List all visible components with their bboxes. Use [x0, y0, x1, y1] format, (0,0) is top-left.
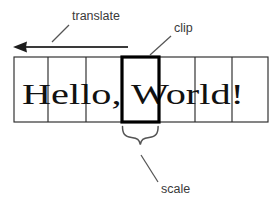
scale-brace	[123, 127, 159, 145]
scale-leader-line	[141, 155, 158, 182]
diagram-canvas: translate clip Hello, World! scale	[0, 0, 277, 204]
text-transform-figure: translate clip Hello, World! scale	[0, 0, 277, 204]
scale-label: scale	[161, 182, 190, 196]
scale-brace-path	[123, 127, 159, 145]
clip-leader-line	[150, 36, 171, 55]
translate-leader-line	[52, 25, 69, 42]
strip-text: Hello, World!	[22, 77, 244, 110]
clip-label: clip	[174, 21, 193, 35]
translate-label: translate	[72, 9, 120, 23]
translate-arrow-group	[13, 42, 128, 53]
translate-arrow-head	[13, 42, 27, 53]
